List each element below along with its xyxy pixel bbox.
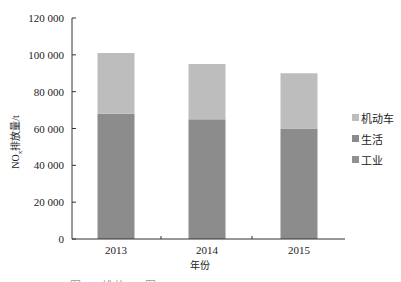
y-axis-title: NOx排放量/t (10, 92, 26, 192)
bar-segment-2014-1 (189, 64, 226, 119)
legend-swatch (352, 156, 359, 163)
y-axis-title-main: NO (10, 154, 21, 168)
bar-segment-2013-1 (98, 53, 135, 114)
y-axis-title-rest: 排放量/t (10, 115, 21, 151)
y-tick-label: 100 000 (4, 49, 64, 61)
legend-label: 工业 (361, 152, 383, 168)
legend-swatch (352, 114, 359, 121)
legend-swatch (352, 135, 359, 142)
legend-label: 机动车 (361, 110, 394, 126)
legend-item: 工业 (352, 149, 394, 170)
x-tick-label: 2015 (279, 244, 319, 256)
legend-item: 生活 (352, 128, 394, 149)
y-tick-label: 20 000 (4, 196, 64, 208)
legend-item: 机动车 (352, 107, 394, 128)
y-tick-label: 0 (4, 233, 64, 245)
bar-segment-2014-0 (189, 119, 226, 239)
y-tick-label: 120 000 (4, 12, 64, 24)
x-axis-title: 年份 (180, 257, 220, 272)
legend: 机动车生活工业 (352, 107, 394, 170)
bar-segment-2013-0 (98, 114, 135, 239)
stacked-bar-chart: 020 00040 00060 00080 000100 000120 000 … (0, 0, 401, 282)
legend-label: 生活 (361, 131, 383, 147)
bar-segment-2015-1 (281, 73, 318, 128)
y-axis-title-subscript: x (16, 151, 24, 155)
bar-segment-2015-0 (281, 129, 318, 240)
figure-caption: 图 … 排放 … 图 (70, 277, 330, 282)
x-tick-label: 2014 (187, 244, 227, 256)
x-tick-label: 2013 (96, 244, 136, 256)
